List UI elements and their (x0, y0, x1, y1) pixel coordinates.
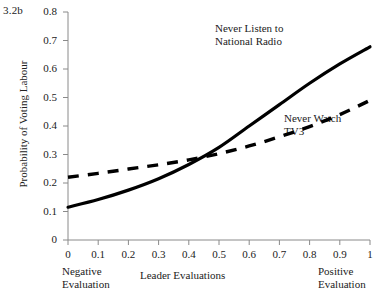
series-line-never-listen-to-national-radio (68, 47, 370, 207)
series-line-never-watch-tv3 (68, 100, 370, 177)
chart-plot-area (0, 0, 379, 297)
figure-root: 3.2b Probability of Voting Labour Leader… (0, 0, 379, 297)
axes-group (63, 12, 370, 245)
series-group (68, 47, 370, 207)
